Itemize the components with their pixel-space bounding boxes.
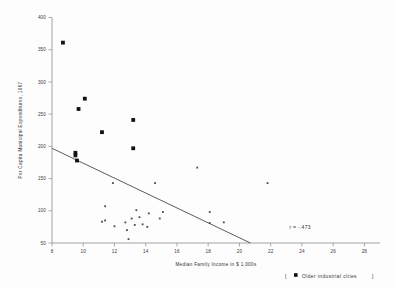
correlation-annotation: r = -.473: [289, 224, 310, 230]
x-tick-label: 20: [237, 249, 243, 254]
data-point-older-industrial: [77, 107, 81, 111]
data-point-other: [154, 182, 156, 184]
legend-open-bracket: [: [285, 274, 287, 279]
y-tick-label: 200: [38, 144, 46, 149]
data-point-older-industrial: [61, 41, 65, 45]
data-point-other: [148, 212, 150, 214]
y-tick-label: 100: [38, 208, 46, 213]
x-tick-label: 22: [268, 249, 274, 254]
data-point-other: [125, 221, 127, 223]
y-tick-label: 50: [41, 241, 47, 246]
data-point-other: [112, 182, 114, 184]
scatter-chart-figure: 50100150200250300350400 8101214161820222…: [0, 0, 396, 288]
data-point-other: [114, 225, 116, 227]
data-point-older-industrial: [100, 130, 104, 134]
x-tick-label: 16: [174, 249, 180, 254]
data-point-other: [267, 182, 269, 184]
data-point-other: [146, 226, 148, 228]
x-axis-title: Median Family Income in $ 1,000s: [175, 262, 257, 267]
x-tick-label: 24: [299, 249, 305, 254]
x-tick-label: 26: [330, 249, 336, 254]
x-tick-label: 18: [205, 249, 211, 254]
y-tick-label: 400: [38, 15, 46, 20]
data-point-other: [223, 221, 225, 223]
data-point-other: [209, 211, 211, 213]
data-point-other: [128, 238, 130, 240]
data-point-other: [134, 224, 136, 226]
chart-background: [0, 0, 396, 288]
data-point-other: [101, 221, 103, 223]
data-point-older-industrial: [75, 159, 79, 163]
data-point-other: [104, 205, 106, 207]
x-tick-label: 12: [112, 249, 118, 254]
data-point-older-industrial: [131, 146, 135, 150]
data-point-other: [131, 218, 133, 220]
data-point-other: [196, 167, 198, 169]
data-point-other: [159, 218, 161, 220]
legend-square-icon: [294, 273, 298, 277]
y-tick-label: 300: [38, 80, 46, 85]
x-tick-label: 28: [362, 249, 368, 254]
data-point-other: [139, 216, 141, 218]
chart-canvas: 50100150200250300350400 8101214161820222…: [0, 0, 396, 288]
data-point-older-industrial: [131, 118, 135, 122]
y-axis-title: Per Capita Municipal Expenditures, 1967: [18, 81, 23, 178]
legend-close-bracket: ]: [372, 274, 374, 279]
y-tick-label: 250: [38, 112, 46, 117]
y-tick-label: 150: [38, 176, 46, 181]
data-point-older-industrial: [74, 153, 78, 157]
x-tick-label: 8: [51, 249, 54, 254]
data-point-other: [135, 209, 137, 211]
data-point-older-industrial: [83, 97, 87, 101]
x-tick-label: 14: [143, 249, 149, 254]
data-point-other: [142, 223, 144, 225]
data-point-other: [104, 220, 106, 222]
y-tick-label: 350: [38, 47, 46, 52]
data-point-other: [209, 222, 211, 224]
legend-entry-label: Older industrial cities: [302, 274, 357, 279]
data-point-other: [162, 211, 164, 213]
x-tick-label: 10: [81, 249, 87, 254]
data-point-other: [126, 229, 128, 231]
